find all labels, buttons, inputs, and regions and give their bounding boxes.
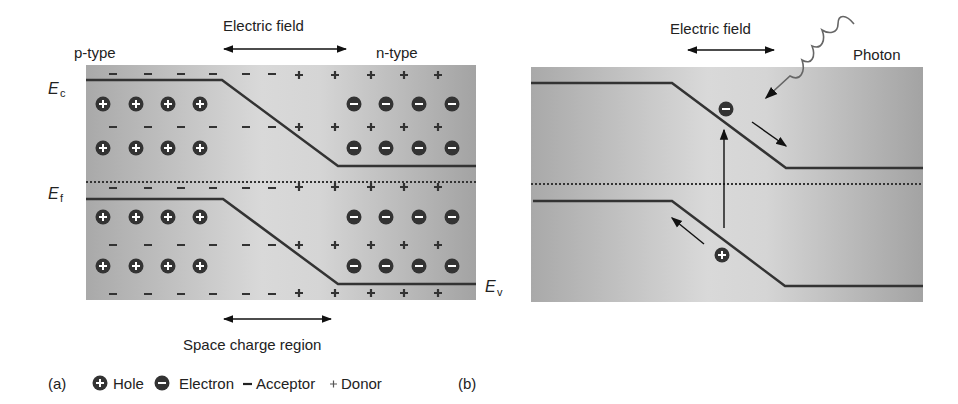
pn-junction-diagram: p-type Electric field n-type E c E f E v… — [0, 0, 958, 404]
legend-plus-icon — [330, 381, 337, 388]
electron-icon — [719, 102, 734, 117]
legend-hole-icon — [93, 376, 108, 391]
photon-label: Photon — [853, 46, 901, 63]
panel-b-label: (b) — [458, 375, 476, 392]
legend-electron-icon — [155, 376, 170, 391]
ec-sub: c — [60, 87, 66, 99]
ec-label: E — [48, 80, 59, 97]
n-type-label: n-type — [376, 44, 418, 61]
ev-sub: v — [497, 286, 503, 298]
legend-electron: Electron — [179, 375, 234, 392]
electric-field-label-a: Electric field — [223, 17, 304, 34]
ef-sub: f — [60, 192, 64, 204]
electric-field-label-b: Electric field — [670, 20, 751, 37]
hole-icon — [715, 248, 730, 263]
legend-hole: Hole — [113, 375, 144, 392]
ef-label: E — [48, 185, 59, 202]
p-type-label: p-type — [74, 44, 116, 61]
panel-a — [86, 49, 476, 319]
legend-acceptor: Acceptor — [256, 375, 315, 392]
space-charge-label: Space charge region — [183, 336, 321, 353]
legend-donor: Donor — [341, 375, 382, 392]
ev-label: E — [485, 278, 496, 295]
panel-a-label: (a) — [48, 375, 66, 392]
